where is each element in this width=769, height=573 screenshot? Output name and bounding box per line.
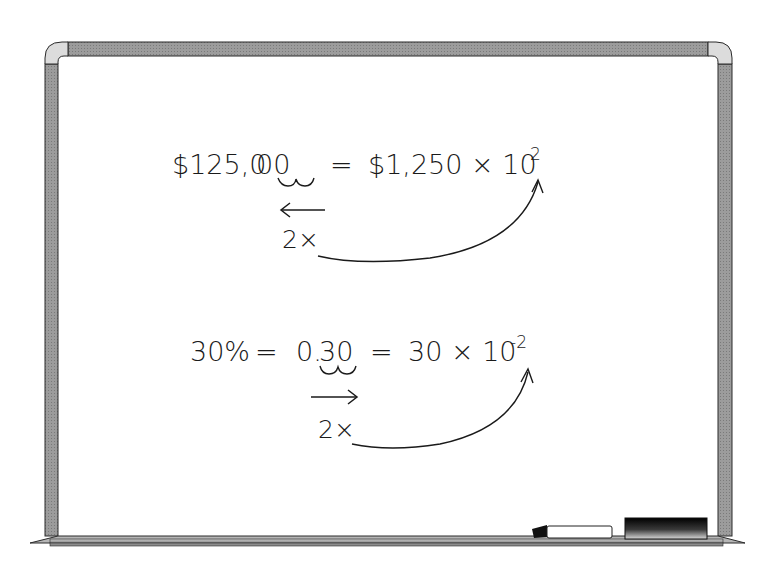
eraser-icon[interactable] — [625, 518, 707, 539]
frame-top — [68, 42, 708, 56]
eq2-lhs: 30% — [190, 336, 250, 367]
eq2-mid-prefix: 0. — [296, 336, 322, 367]
board-surface — [58, 56, 718, 536]
eq1-lhs-underlined: 00 — [256, 149, 290, 180]
eq2-mid-underlined: 30 — [319, 336, 353, 367]
eq1-equals: = — [330, 149, 353, 180]
eq2-equals-1: = — [255, 336, 278, 367]
eq2-shift-label: 2× — [318, 415, 355, 444]
frame-left — [45, 64, 58, 536]
eq2-equals-2: = — [370, 336, 393, 367]
marker-icon[interactable] — [532, 525, 612, 538]
eq2-rhs-base: 30 × 10 — [408, 336, 517, 367]
eq2-rhs-exponent: -2 — [510, 332, 527, 352]
eq1-rhs-base: $1,250 × 10 — [368, 149, 537, 180]
whiteboard-scene: $125,0 00 = $1,250 × 10 2 2× 30% = 0. 30… — [0, 0, 769, 573]
eq1-shift-label: 2× — [282, 225, 319, 254]
frame-right — [718, 64, 732, 536]
eq1-rhs-exponent: 2 — [530, 144, 541, 164]
whiteboard-frame — [30, 42, 745, 546]
eq1-lhs-prefix: $125,0 — [172, 149, 266, 180]
